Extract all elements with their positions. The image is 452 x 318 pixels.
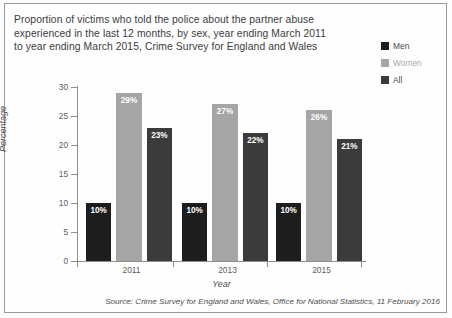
bar-value-label: 26%	[306, 113, 331, 122]
x-axis-label: Year	[0, 279, 443, 289]
y-tick-label: 5	[44, 227, 68, 237]
bar-value-label: 23%	[147, 131, 172, 140]
y-tick-label: 25	[44, 111, 68, 121]
bar-value-label: 29%	[116, 96, 141, 105]
x-tick-label-2013: 2013	[182, 265, 273, 275]
legend-label-men: Men	[393, 41, 409, 51]
bar-men-2015[interactable]: 10%	[276, 203, 301, 261]
bar-men-2011[interactable]: 10%	[86, 203, 111, 261]
bar-men-2013[interactable]: 10%	[182, 203, 207, 261]
bar-value-label: 10%	[182, 206, 207, 215]
y-tick-label: 30	[44, 82, 68, 92]
chart-title-line-2: experienced in the last 12 months, by se…	[14, 27, 354, 41]
legend-item-men: Men	[381, 39, 422, 53]
bar-group: 10%29%23%2011	[86, 87, 177, 261]
legend-swatch-all	[381, 76, 389, 84]
bar-women-2011[interactable]: 29%	[116, 93, 141, 261]
x-tick-label-2011: 2011	[86, 265, 177, 275]
legend-swatch-women	[381, 59, 389, 67]
bar-women-2013[interactable]: 27%	[212, 104, 237, 261]
y-tick-label: 20	[44, 140, 68, 150]
bar-all-2013[interactable]: 22%	[243, 133, 268, 261]
x-tick-mark	[267, 262, 268, 267]
bar-women-2015[interactable]: 26%	[306, 110, 331, 261]
bar-value-label: 10%	[276, 206, 301, 215]
bar-value-label: 21%	[337, 142, 362, 151]
x-axis-line	[77, 261, 366, 262]
chart-legend: Men Women All	[381, 39, 422, 90]
chart-title-line-3: to year ending March 2015, Crime Survey …	[14, 40, 354, 54]
bar-group: 10%26%21%2015	[276, 87, 367, 261]
bar-value-label: 10%	[86, 206, 111, 215]
bar-all-2015[interactable]: 21%	[337, 139, 362, 261]
chart-title-line-1: Proportion of victims who told the polic…	[14, 13, 354, 27]
legend-swatch-men	[381, 42, 389, 50]
x-tick-mark	[361, 262, 362, 267]
legend-label-all: All	[393, 75, 402, 85]
y-tick-label: 10	[44, 198, 68, 208]
legend-item-women: Women	[381, 56, 422, 70]
bar-group: 10%27%22%2013	[182, 87, 273, 261]
x-tick-label-2015: 2015	[276, 265, 367, 275]
chart-title: Proportion of victims who told the polic…	[14, 13, 354, 54]
y-tick-label: 15	[44, 169, 68, 179]
bar-value-label: 22%	[243, 136, 268, 145]
bar-value-label: 27%	[212, 107, 237, 116]
x-tick-mark	[173, 262, 174, 267]
plot-area: 10%29%23%201110%27%22%201310%26%21%2015	[77, 87, 365, 261]
source-note: Source: Crime Survey for England and Wal…	[105, 297, 440, 306]
y-tick-label: 0	[44, 256, 68, 266]
y-axis-label: Percentage	[0, 106, 8, 152]
chart-figure: Proportion of victims who told the polic…	[0, 0, 452, 318]
legend-item-all: All	[381, 73, 422, 87]
bar-all-2011[interactable]: 23%	[147, 128, 172, 261]
legend-label-women: Women	[393, 58, 422, 68]
x-tick-mark	[77, 262, 78, 267]
